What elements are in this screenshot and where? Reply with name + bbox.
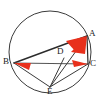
point-label-D: D [57, 47, 64, 56]
point-label-E: E [47, 87, 53, 96]
segment-BE [14, 63, 50, 87]
geometry-canvas [0, 0, 102, 100]
point-label-C: C [90, 59, 96, 68]
geometry-figure: A B C D E [0, 0, 102, 100]
point-label-A: A [89, 29, 96, 38]
point-label-B: B [3, 57, 9, 66]
segment-AC [87, 36, 88, 64]
